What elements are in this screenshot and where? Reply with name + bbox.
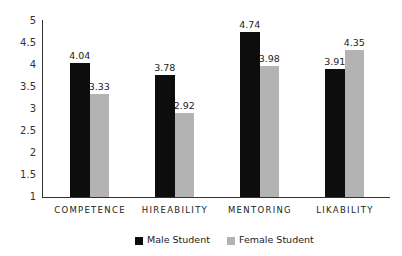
x-label-likability: LIKABILITY: [295, 205, 395, 215]
value-label: 3.33: [79, 81, 119, 92]
value-label: 3.98: [249, 53, 289, 64]
bar-male-student-hireability: [155, 75, 175, 197]
y-tick: 1.5: [6, 169, 36, 180]
bar-male-student-likability: [325, 69, 345, 197]
bar-female-student-competence: [90, 94, 110, 197]
y-tick: 4: [6, 59, 36, 70]
legend-swatch-female: [227, 237, 235, 245]
value-label: 4.35: [334, 37, 374, 48]
value-label: 4.04: [60, 50, 100, 61]
y-tick: 3.5: [6, 81, 36, 92]
legend-swatch-male: [135, 237, 143, 245]
y-tick: 2.5: [6, 125, 36, 136]
y-tick: 4.5: [6, 37, 36, 48]
y-tick: 1: [6, 191, 36, 202]
legend-label-male: Male Student: [147, 234, 210, 245]
value-label: 4.74: [230, 19, 270, 30]
bar-female-student-mentoring: [260, 66, 280, 197]
value-label: 3.78: [145, 62, 185, 73]
bar-female-student-likability: [345, 50, 365, 197]
bar-female-student-hireability: [175, 113, 195, 197]
y-tick: 2: [6, 147, 36, 158]
value-label: 2.92: [164, 100, 204, 111]
x-axis-line: [42, 197, 390, 198]
y-tick: 3: [6, 103, 36, 114]
y-tick: 5: [6, 15, 36, 26]
y-axis-line: [42, 20, 43, 198]
legend-label-female: Female Student: [239, 234, 314, 245]
